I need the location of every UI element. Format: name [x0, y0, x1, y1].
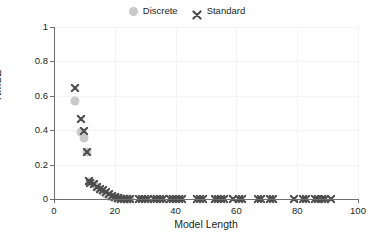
gridline-horizontal [54, 27, 358, 28]
x-axis-line [54, 199, 358, 200]
data-point-discrete [83, 147, 92, 156]
data-point-standard [89, 180, 98, 189]
data-point-standard [86, 178, 95, 187]
data-point-standard [101, 188, 110, 197]
x-axis-label: Model Length [54, 218, 358, 230]
data-point-standard [92, 182, 101, 191]
data-point-discrete [98, 188, 107, 197]
data-point-discrete [89, 180, 98, 189]
y-tick-label: 0.8 [35, 57, 48, 67]
chart-container: Discrete Standard 00.20.40.60.81 0204060… [0, 0, 374, 241]
x-tick-label: 100 [350, 206, 366, 216]
x-tick [358, 199, 359, 203]
legend-entry-standard: Standard [192, 6, 246, 16]
gridline-horizontal [54, 61, 358, 62]
y-tick-label: 1 [43, 22, 48, 32]
gridline-vertical [176, 27, 177, 199]
gridline-horizontal [54, 130, 358, 131]
data-point-discrete [80, 133, 89, 142]
x-tick-label: 80 [292, 206, 303, 216]
gridline-vertical [115, 27, 116, 199]
data-point-standard [84, 176, 93, 185]
data-point-standard [95, 184, 104, 193]
x-tick-label: 60 [231, 206, 242, 216]
gridline-vertical [236, 27, 237, 199]
legend-label-discrete: Discrete [143, 6, 178, 16]
data-point-discrete [77, 127, 86, 136]
legend-label-standard: Standard [207, 6, 246, 16]
chart-legend: Discrete Standard [0, 2, 374, 20]
y-axis-label: NMSE [0, 70, 3, 100]
y-tick-label: 0 [43, 194, 48, 204]
data-point-discrete [92, 182, 101, 191]
y-tick-label: 0.2 [35, 160, 48, 170]
data-point-standard [77, 115, 86, 124]
gridline-horizontal [54, 165, 358, 166]
x-tick-label: 0 [51, 206, 56, 216]
legend-x-marker-icon [192, 6, 202, 16]
data-point-discrete [101, 189, 110, 198]
y-tick-label: 0.6 [35, 91, 48, 101]
legend-entry-discrete: Discrete [129, 6, 178, 16]
data-point-discrete [71, 96, 80, 105]
gridline-horizontal [54, 96, 358, 97]
data-point-standard [104, 190, 113, 199]
y-axis-line [54, 27, 55, 199]
plot-area: 00.20.40.60.81 020406080100 [54, 27, 358, 199]
data-point-discrete [95, 185, 104, 194]
data-point-standard [71, 84, 80, 93]
gridline-vertical [358, 27, 359, 199]
data-point-discrete [86, 177, 95, 186]
y-tick-label: 0.4 [35, 125, 48, 135]
legend-circle-marker-icon [129, 7, 138, 16]
data-point-standard [83, 147, 92, 156]
x-tick-label: 20 [110, 206, 121, 216]
x-tick-label: 40 [170, 206, 181, 216]
gridline-vertical [297, 27, 298, 199]
data-point-standard [98, 186, 107, 195]
